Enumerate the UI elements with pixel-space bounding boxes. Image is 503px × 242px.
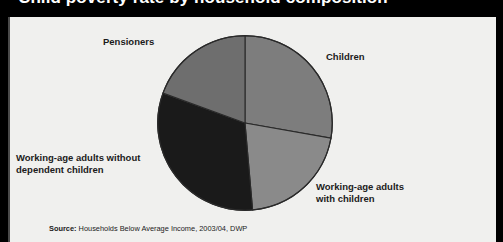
title-band: Child poverty rate by household composit…: [0, 0, 503, 17]
figure-container: Child poverty rate by household composit…: [0, 0, 503, 242]
left-black-band: [0, 0, 8, 242]
pie-label-pensioners: Pensioners: [103, 36, 154, 48]
pie-label-working-age-adults-without-dependent-children: Working-age adults without dependent chi…: [16, 152, 140, 176]
pie-slices: [158, 36, 333, 211]
panel-left-rule: [8, 17, 10, 242]
pie-label-children: Children: [326, 51, 365, 63]
source-text: Households Below Average Income, 2003/04…: [77, 224, 248, 233]
source-label: Source:: [49, 224, 77, 233]
right-black-band: [496, 0, 503, 242]
source-note: Source: Households Below Average Income,…: [49, 224, 247, 233]
pie-slice-children[interactable]: [245, 36, 332, 138]
pie-chart-svg: [157, 35, 333, 211]
pie-label-working-age-adults-with-children: Working-age adults with children: [316, 181, 404, 205]
pie-chart: [157, 35, 333, 211]
figure-title: Child poverty rate by household composit…: [18, 0, 388, 8]
